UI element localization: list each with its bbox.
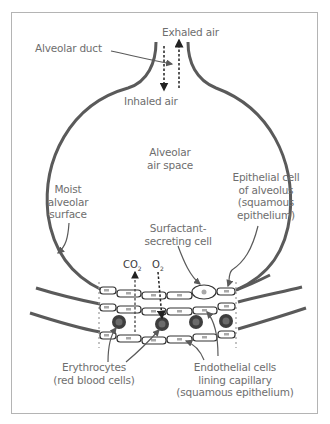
label-co2: CO2 [123, 259, 142, 272]
tissue-line-left-mid [30, 313, 100, 332]
endothelial-cell-row-bottom [100, 331, 235, 344]
label-alveolar-duct: Alveolar duct [35, 42, 102, 55]
label-line: Alveolar [120, 146, 220, 159]
label-line: Moist [38, 183, 98, 196]
label-line: lining capillary [172, 374, 298, 387]
label-alveolar-air-space: Alveolar air space [120, 146, 220, 171]
endothelial-cell-row-top [100, 303, 235, 315]
tissue-line-right-top [236, 275, 270, 290]
label-line: Surfactant- [138, 222, 218, 235]
label-o2-text: O [152, 259, 160, 270]
tissue-line-right-mid [238, 287, 302, 302]
label-line: surface [38, 208, 98, 221]
label-co2-sub: 2 [138, 265, 142, 272]
leader-endothelial-1 [186, 341, 204, 360]
label-line: Erythrocytes [44, 361, 144, 374]
label-line: Endothelial cells [172, 361, 298, 374]
label-line: Epithelial cell [221, 171, 311, 184]
label-line: (red blood cells) [44, 374, 144, 387]
label-line: (squamous epithelium) [172, 386, 298, 399]
label-line: of alveolus [221, 184, 311, 197]
label-erythrocytes: Erythrocytes (red blood cells) [44, 361, 144, 386]
leader-epithelial [228, 226, 258, 286]
label-line: epithelium) [221, 209, 311, 222]
surfactant-nucleus [202, 290, 207, 295]
label-epithelial-cell: Epithelial cell of alveolus (squamous ep… [221, 171, 311, 221]
tissue-line-right-bot [238, 308, 306, 329]
label-line: (squamous [221, 196, 311, 209]
label-surfactant-cell: Surfactant- secreting cell [138, 222, 218, 247]
label-line: air space [120, 159, 220, 172]
label-inhaled-air: Inhaled air [124, 95, 178, 108]
leader-alveolar-duct [111, 51, 172, 64]
label-o2-sub: 2 [160, 265, 164, 272]
alveolus-diagram: Exhaled air Alveolar duct Inhaled air Al… [0, 0, 330, 424]
label-endothelial-cells: Endothelial cells lining capillary (squa… [172, 361, 298, 399]
label-line: alveolar [38, 196, 98, 209]
label-exhaled-air: Exhaled air [162, 26, 219, 39]
label-co2-text: CO [123, 259, 138, 270]
epithelial-cell-row [100, 285, 235, 299]
tissue-line-left-top [36, 288, 100, 304]
label-moist-alveolar-surface: Moist alveolar surface [38, 183, 98, 221]
label-line: secreting cell [138, 235, 218, 248]
label-o2: O2 [152, 259, 164, 272]
leader-surfactant [178, 246, 200, 284]
